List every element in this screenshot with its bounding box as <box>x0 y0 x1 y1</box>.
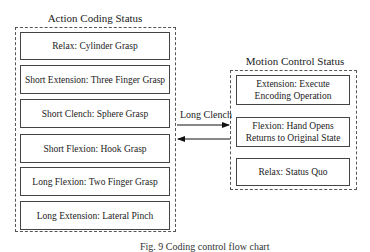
figure-caption: Fig. 9 Coding control flow chart <box>140 241 269 252</box>
